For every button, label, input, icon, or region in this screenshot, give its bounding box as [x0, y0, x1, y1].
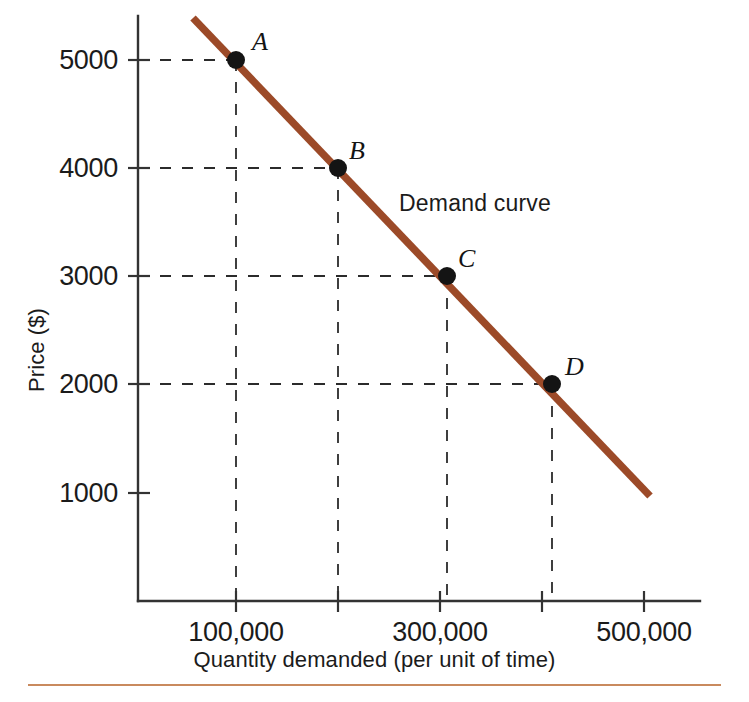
- x-tick-label-300000: 300,000: [350, 619, 530, 646]
- y-tick-label-2000: 2000: [40, 371, 118, 398]
- axis-lines: [138, 16, 700, 601]
- demand-curve-figure: 5000 4000 3000 2000 1000 100,000 300,000…: [0, 0, 749, 702]
- point-label-d: D: [565, 354, 584, 380]
- x-axis-title: Quantity demanded (per unit of time): [0, 649, 749, 671]
- x-tick-label-500000: 500,000: [554, 619, 734, 646]
- data-point-d: [543, 375, 561, 393]
- x-tick-label-100000: 100,000: [146, 619, 326, 646]
- demand-curve-line: [193, 18, 650, 496]
- chart-canvas: [0, 0, 749, 702]
- y-tick-label-3000: 3000: [40, 263, 118, 290]
- y-tick-label-1000: 1000: [40, 480, 118, 507]
- data-point-a: [227, 51, 245, 69]
- y-tick-label-5000: 5000: [40, 47, 118, 74]
- bottom-accent-rule: [28, 684, 721, 686]
- point-label-a: A: [252, 29, 268, 55]
- point-label-c: C: [458, 246, 475, 272]
- data-point-c: [438, 267, 456, 285]
- data-point-b: [329, 159, 347, 177]
- point-label-b: B: [349, 138, 365, 164]
- y-tick-label-4000: 4000: [40, 155, 118, 182]
- demand-curve-label: Demand curve: [399, 192, 551, 215]
- y-axis-title: Price ($): [26, 308, 48, 392]
